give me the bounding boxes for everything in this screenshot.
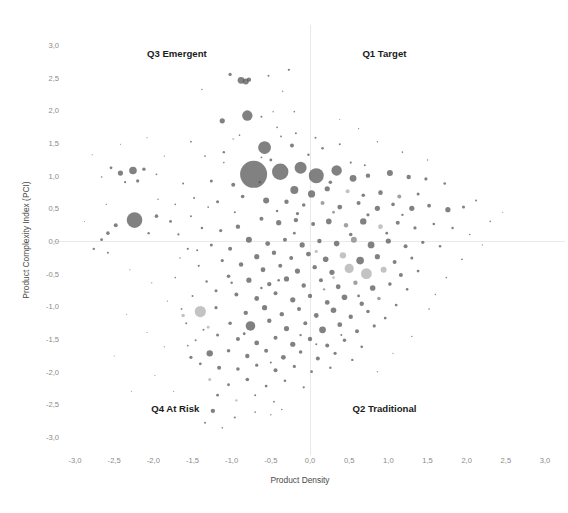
bubble-marker — [317, 239, 321, 243]
bubble-marker — [236, 224, 240, 228]
bubble-marker — [236, 337, 240, 341]
bubble-marker — [258, 181, 261, 184]
bubble-marker — [427, 204, 431, 208]
bubble-marker — [356, 257, 364, 265]
y-tick-label: 1,5 — [48, 139, 59, 148]
bubble-marker — [230, 282, 232, 284]
bubble-marker — [234, 416, 236, 418]
bubble-marker — [217, 366, 221, 370]
bubble-marker — [302, 283, 306, 287]
bubble-marker — [314, 137, 316, 139]
bubble-marker — [325, 186, 330, 191]
bubble-marker — [205, 280, 207, 282]
bubble-marker — [276, 126, 278, 128]
x-tick-label: 2,0 — [461, 456, 472, 465]
bubble-marker — [353, 281, 357, 285]
bubble-marker — [187, 248, 189, 250]
bubble-marker — [231, 183, 235, 187]
bubble-marker — [201, 227, 203, 229]
bubble-marker — [319, 278, 323, 282]
bubble-marker — [297, 307, 301, 311]
bubble-marker — [267, 75, 269, 77]
bubble-marker — [360, 346, 363, 349]
bubble-marker — [295, 268, 300, 273]
bubble-marker — [234, 293, 238, 297]
bubble-marker — [129, 269, 130, 270]
bubble-marker — [357, 294, 360, 297]
y-tick-label: -3,0 — [46, 433, 59, 442]
bubble-marker — [283, 238, 287, 242]
bubble-marker — [413, 226, 416, 229]
bubble-marker — [314, 313, 319, 318]
bubble-marker — [235, 399, 237, 401]
bubble-marker — [273, 401, 275, 403]
bubble-marker — [393, 260, 397, 264]
bubble-marker — [173, 391, 174, 392]
bubble-marker — [223, 151, 225, 153]
bubble-marker — [303, 321, 307, 325]
bubble-marker — [401, 214, 403, 216]
bubble-marker — [276, 220, 281, 225]
bubble-marker — [267, 319, 271, 323]
bubble-marker — [236, 367, 240, 371]
bubble-marker — [307, 154, 309, 156]
bubble-marker — [255, 364, 258, 367]
bubble-marker — [329, 180, 333, 184]
bubble-marker — [190, 141, 192, 143]
bubble-marker — [207, 326, 210, 329]
bubble-marker — [392, 353, 393, 354]
bubble-marker — [164, 155, 165, 156]
bubble-marker — [424, 177, 427, 180]
bubble-marker — [421, 241, 424, 244]
x-tick-label: -0,5 — [264, 456, 277, 465]
bubble-marker — [246, 237, 252, 243]
y-tick-label: 3,0 — [48, 41, 59, 50]
bubble-marker — [136, 179, 139, 182]
y-tick-label: -1,0 — [46, 302, 59, 311]
bubble-marker — [193, 197, 195, 199]
x-tick-label: 2,5 — [501, 456, 512, 465]
scatter-chart: -3,0-2,5-2,0-1,5-1,0-0,50,00,51,01,52,02… — [0, 0, 568, 513]
bubble-marker — [295, 162, 307, 174]
bubble-marker — [239, 134, 241, 136]
bubble-marker — [339, 143, 341, 145]
bubble-marker — [386, 238, 391, 243]
bubble-marker — [196, 249, 198, 251]
bubble-marker — [221, 259, 224, 262]
bubble-marker — [246, 321, 256, 331]
bubble-marker — [321, 147, 324, 150]
bubble-marker — [210, 243, 213, 246]
bubble-marker — [349, 315, 353, 319]
bubble-marker — [475, 199, 477, 201]
bubble-marker — [315, 343, 317, 345]
bubble-marker — [277, 279, 280, 282]
bubble-marker — [290, 342, 295, 347]
bubble-marker — [351, 359, 353, 361]
bubble-marker — [311, 222, 315, 226]
bubble-marker — [284, 276, 289, 281]
bubble-marker — [281, 409, 283, 411]
bubble-marker — [264, 349, 268, 353]
bubble-marker — [340, 252, 346, 258]
bubble-marker — [247, 77, 251, 81]
bubble-marker — [227, 349, 231, 353]
bubble-marker — [294, 111, 296, 113]
bubble-marker — [234, 211, 236, 213]
bubble-marker — [329, 367, 331, 369]
bubble-marker — [469, 234, 471, 236]
bubble-marker — [323, 288, 325, 290]
bubble-marker — [215, 289, 218, 292]
bubble-marker — [221, 427, 223, 429]
bubble-marker — [100, 238, 103, 241]
bubble-marker — [110, 166, 113, 169]
bubble-marker — [319, 326, 326, 333]
bubble-marker — [254, 341, 259, 346]
bubble-marker — [300, 242, 305, 247]
bubble-marker — [313, 265, 317, 269]
bubble-marker — [323, 256, 329, 262]
bubble-marker — [366, 310, 370, 314]
bubble-marker — [293, 365, 296, 368]
bubble-marker — [428, 308, 430, 310]
bubble-marker — [267, 282, 271, 286]
bubble-marker — [399, 273, 403, 277]
